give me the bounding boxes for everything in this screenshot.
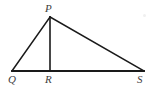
segment-ps [50,17,144,71]
geometry-figure: P Q R S [0,0,156,88]
segment-qp [12,17,50,71]
scan-artifact-speck [143,14,146,17]
vertex-label-s: S [137,74,143,85]
triangle-diagram-svg [0,0,156,88]
vertex-label-p: P [45,3,52,14]
vertex-label-r: R [45,74,52,85]
vertex-label-q: Q [8,74,16,85]
